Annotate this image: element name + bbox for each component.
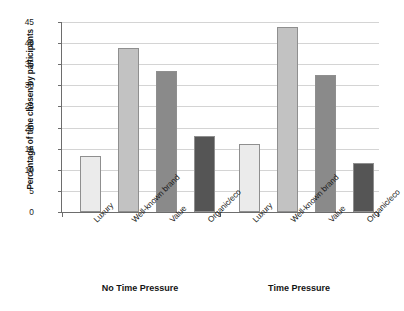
y-tick-label: 30 (4, 80, 34, 90)
y-tick-label: 25 (4, 101, 34, 111)
y-tick-mark (58, 128, 62, 129)
bar (194, 136, 215, 212)
bar (353, 163, 374, 212)
y-tick-mark (58, 106, 62, 107)
gridline (62, 64, 379, 65)
y-tick-label: 5 (4, 186, 34, 196)
gridline (62, 43, 379, 44)
gridline (62, 22, 379, 23)
bar (239, 144, 260, 212)
y-tick-mark (58, 22, 62, 23)
y-tick-mark (58, 191, 62, 192)
bar-chart: Percentage of time chosen by participant… (0, 0, 404, 311)
bar (80, 156, 101, 212)
y-tick-mark (58, 85, 62, 86)
y-axis-spine (61, 22, 62, 212)
y-tick-label: 15 (4, 144, 34, 154)
x-tick-mark (62, 212, 63, 217)
bar (118, 48, 139, 212)
y-tick-mark (58, 43, 62, 44)
y-tick-label: 45 (4, 17, 34, 27)
y-tick-label: 35 (4, 59, 34, 69)
y-tick-mark (58, 149, 62, 150)
y-tick-label: 0 (4, 207, 34, 217)
y-tick-label: 10 (4, 165, 34, 175)
y-tick-label: 40 (4, 38, 34, 48)
y-tick-mark (58, 170, 62, 171)
y-tick-mark (58, 64, 62, 65)
bar (277, 27, 298, 212)
x-group-label: Time Pressure (268, 283, 330, 293)
x-group-label: No Time Pressure (102, 283, 178, 293)
y-tick-label: 20 (4, 123, 34, 133)
